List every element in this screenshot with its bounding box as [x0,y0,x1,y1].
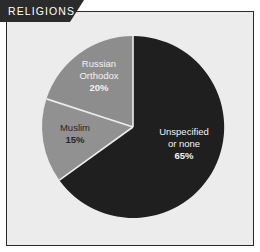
section-title: RELIGIONS [0,5,75,17]
pie-label-russian-line2: Orthodox [79,70,118,81]
pie-label-russian-line1: Russian [82,58,116,69]
section-header-banner: RELIGIONS [0,0,84,22]
pie-label-unspecified-line2: or none [168,138,200,149]
pie-label-muslim: Muslim 15% [42,122,108,146]
pie-label-russian-orthodox: Russian Orthodox 20% [62,58,136,94]
pie-value-muslim: 15% [42,134,108,146]
pie-label-muslim-line1: Muslim [60,122,90,133]
pie-value-unspecified: 65% [142,150,226,162]
pie-label-unspecified-line1: Unspecified [159,126,209,137]
religions-pie-figure: Unspecified or none 65% Russian Orthodox… [0,0,260,252]
pie-value-russian-orthodox: 20% [62,82,136,94]
pie-label-unspecified-or-none: Unspecified or none 65% [142,126,226,162]
